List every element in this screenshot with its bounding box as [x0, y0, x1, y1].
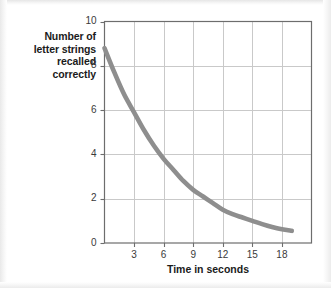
plot-area — [0, 0, 331, 288]
line-chart-figure: Number of letter strings recalled correc… — [0, 0, 331, 288]
x-tick-label: 3 — [124, 249, 144, 260]
tick-marks — [101, 23, 283, 248]
plot-frame — [105, 22, 312, 244]
x-axis-title: Time in seconds — [104, 263, 312, 275]
y-tick-label: 0 — [79, 237, 97, 248]
y-tick-label: 6 — [79, 104, 97, 115]
x-tick-label: 9 — [183, 249, 203, 260]
x-tick-label: 15 — [242, 249, 262, 260]
x-tick-label: 6 — [154, 249, 174, 260]
y-tick-label: 2 — [79, 192, 97, 203]
y-tick-label: 4 — [79, 148, 97, 159]
chart-screenshot: Number of letter strings recalled correc… — [0, 0, 331, 288]
x-tick-label: 12 — [213, 249, 233, 260]
y-tick-label: 8 — [79, 59, 97, 70]
data-series-line — [105, 48, 292, 231]
x-tick-label: 18 — [272, 249, 292, 260]
gridlines — [105, 22, 312, 244]
y-tick-label: 10 — [79, 15, 97, 26]
